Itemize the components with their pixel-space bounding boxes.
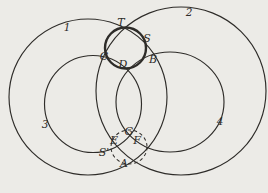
label-point-E: E <box>109 134 118 147</box>
label-point-B: B <box>148 53 157 66</box>
circle-2 <box>96 7 266 175</box>
label-point-C: C <box>100 50 109 63</box>
label-circle-S-prime: S' <box>99 146 110 159</box>
label-point-F: F <box>132 134 141 147</box>
label-point-D: D <box>118 58 128 71</box>
label-circle-2: 2 <box>185 6 193 18</box>
four-circles-diagram: 1 2 3 4 T S C D B G E F S' A <box>0 0 268 193</box>
label-circle-4: 4 <box>216 115 224 127</box>
figure-canvas: 1 2 3 4 T S C D B G E F S' A <box>0 0 268 193</box>
label-point-A: A <box>119 157 128 170</box>
label-circle-S: S <box>143 32 151 45</box>
label-circle-1: 1 <box>64 21 71 33</box>
label-circle-3: 3 <box>42 118 49 130</box>
